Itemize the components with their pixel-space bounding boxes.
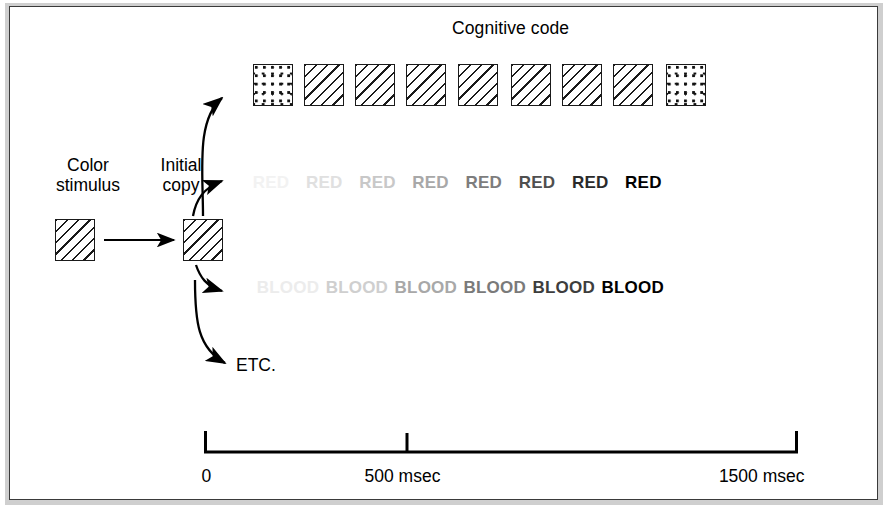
- color-stimulus-swatch: [55, 219, 95, 261]
- label-color-stimulus-line1: Color: [67, 155, 109, 175]
- cognitive-code-blood-2: BLOOD: [326, 279, 388, 296]
- cognitive-code-swatch-3: [355, 64, 395, 106]
- axis-tick-label-1500: 1500 msec: [719, 466, 805, 487]
- initial-copy-swatch: [183, 219, 223, 261]
- cognitive-code-blood-5: BLOOD: [533, 279, 595, 296]
- figure-title: Cognitive code: [452, 18, 569, 39]
- cognitive-code-blood-6: BLOOD: [601, 279, 663, 296]
- cognitive-code-swatch-8: [613, 64, 653, 106]
- cognitive-code-swatch-5: [458, 64, 498, 106]
- axis-tick-label-500: 500 msec: [365, 466, 441, 487]
- cognitive-code-blood-1: BLOOD: [257, 279, 319, 296]
- cognitive-code-swatch-9: [666, 64, 706, 106]
- cognitive-code-swatch-7: [562, 64, 602, 106]
- cognitive-code-red-3: RED: [359, 174, 396, 191]
- cognitive-code-blood-3: BLOOD: [395, 279, 457, 296]
- cognitive-code-red-6: RED: [519, 174, 556, 191]
- label-color-stimulus-line2: stimulus: [56, 175, 120, 195]
- cognitive-code-red-2: RED: [306, 174, 343, 191]
- label-initial-copy-line2: copy: [163, 175, 200, 195]
- label-initial-copy-line1: Initial: [161, 155, 202, 175]
- cognitive-code-swatch-2: [304, 64, 344, 106]
- cognitive-code-blood-4: BLOOD: [464, 279, 526, 296]
- cognitive-code-swatch-1: [253, 64, 293, 106]
- cognitive-code-red-5: RED: [466, 174, 503, 191]
- cognitive-code-red-1: RED: [253, 174, 290, 191]
- cognitive-code-swatch-4: [406, 64, 446, 106]
- cognitive-code-red-8: RED: [625, 174, 662, 191]
- cognitive-code-red-7: RED: [572, 174, 609, 191]
- figure-root: Cognitive code Color stimulus Initial co…: [0, 0, 892, 514]
- cognitive-code-swatch-6: [511, 64, 551, 106]
- label-color-stimulus: Color stimulus: [38, 155, 138, 195]
- axis-tick-label-0: 0: [202, 466, 212, 487]
- cognitive-code-red-4: RED: [412, 174, 449, 191]
- label-etc: ETC.: [236, 355, 276, 375]
- label-initial-copy: Initial copy: [142, 155, 220, 195]
